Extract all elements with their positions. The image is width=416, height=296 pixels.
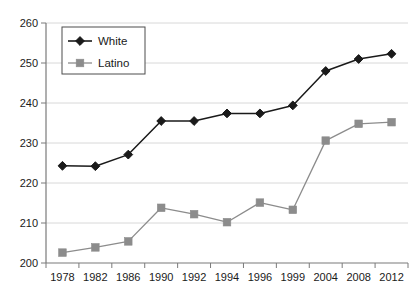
data-point-marker (76, 59, 84, 67)
line-chart: 2002102202302402502601978198219861990199… (0, 0, 416, 296)
series-line (62, 122, 391, 252)
data-point-marker (355, 120, 363, 128)
data-point-marker (256, 109, 265, 118)
data-point-marker (92, 244, 100, 252)
legend: WhiteLatino (62, 27, 145, 74)
data-point-marker (256, 199, 264, 207)
series-latino (59, 118, 396, 256)
x-tick-label: 1994 (215, 271, 239, 283)
x-tick-label: 2012 (379, 271, 403, 283)
data-point-marker (388, 118, 396, 126)
y-tick-label: 250 (20, 57, 38, 69)
data-point-marker (190, 210, 198, 218)
x-tick-label: 1986 (116, 271, 140, 283)
x-tick-label: 1982 (83, 271, 107, 283)
x-tick-label: 1990 (149, 271, 173, 283)
x-tick-label: 1996 (248, 271, 272, 283)
data-point-marker (124, 238, 132, 246)
data-point-marker (354, 55, 363, 64)
data-point-marker (91, 162, 100, 171)
data-point-marker (289, 206, 297, 214)
x-tick-label: 2008 (346, 271, 370, 283)
data-point-marker (223, 109, 232, 118)
data-point-marker (190, 117, 199, 126)
legend-label: White (98, 35, 127, 47)
x-tick-label: 1999 (281, 271, 305, 283)
data-point-marker (58, 161, 67, 170)
y-tick-label: 200 (20, 257, 38, 269)
data-point-marker (387, 49, 396, 58)
data-point-marker (59, 249, 67, 257)
y-tick-label: 240 (20, 97, 38, 109)
x-tick-label: 2004 (313, 271, 337, 283)
data-point-marker (223, 218, 231, 226)
y-tick-label: 260 (20, 17, 38, 29)
data-point-marker (157, 204, 165, 212)
x-tick-label: 1978 (50, 271, 74, 283)
x-tick-label: 1992 (182, 271, 206, 283)
x-axis: 1978198219861990199219941996199920042008… (46, 263, 408, 283)
data-point-marker (322, 137, 330, 145)
legend-label: Latino (98, 57, 129, 69)
y-tick-label: 220 (20, 177, 38, 189)
y-tick-label: 230 (20, 137, 38, 149)
y-tick-label: 210 (20, 217, 38, 229)
chart-canvas: 2002102202302402502601978198219861990199… (0, 0, 416, 296)
